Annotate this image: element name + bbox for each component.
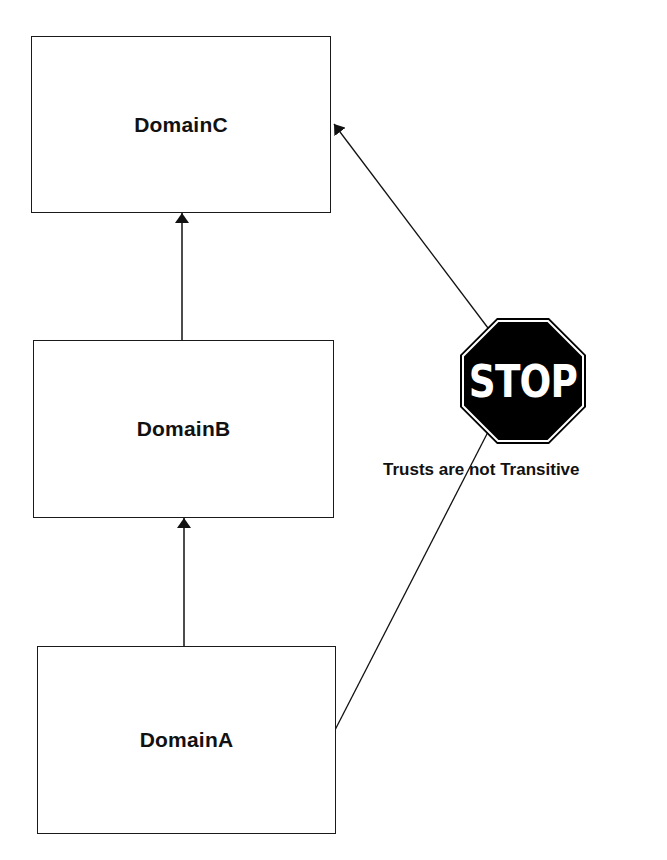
stop-sign-icon: STOP: [459, 317, 587, 445]
stop-text: STOP: [469, 317, 578, 445]
node-label: DomainC: [134, 113, 228, 137]
node-domain-c: DomainC: [31, 36, 331, 213]
caption: Trusts are not Transitive: [383, 460, 580, 480]
node-label: DomainA: [140, 728, 234, 752]
node-label: DomainB: [137, 417, 231, 441]
node-domain-a: DomainA: [37, 646, 336, 834]
node-domain-b: DomainB: [33, 340, 334, 518]
arrow-stop-to-c: [334, 124, 488, 328]
